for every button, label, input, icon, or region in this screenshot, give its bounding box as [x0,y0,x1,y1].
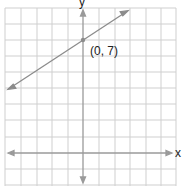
x-axis-label: x [175,146,181,160]
y-axis-label: y [79,0,85,9]
point-label: (0, 7) [90,44,118,58]
y-axis [81,10,86,183]
coordinate-plane [0,0,183,186]
point-0-7 [81,38,85,42]
x-axis [8,151,172,156]
